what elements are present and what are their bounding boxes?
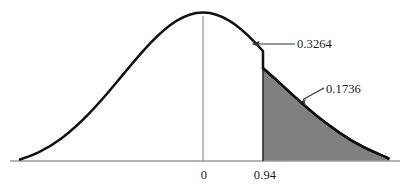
x-axis-tick-label-mean: 0	[201, 168, 207, 183]
x-axis-tick-label-z: 0.94	[254, 168, 276, 183]
annotation-leader-tail-area	[299, 88, 325, 104]
normal-distribution-figure: 0.3264 0.1736 0 0.94	[0, 0, 410, 195]
annotation-label-tail-area: 0.1736	[326, 82, 361, 97]
annotation-label-upper-area: 0.3264	[297, 37, 332, 52]
distribution-plot	[0, 0, 410, 195]
annotation-leader-upper-area	[252, 41, 296, 47]
